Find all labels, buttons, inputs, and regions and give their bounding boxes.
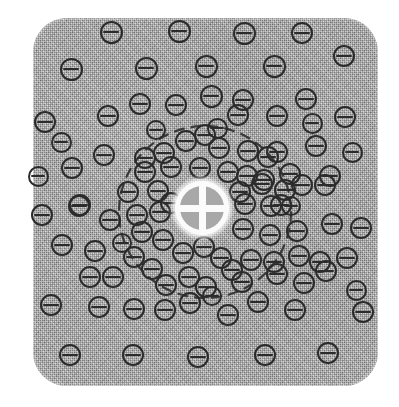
figure-root: Particle distribution field with central… xyxy=(0,0,399,407)
cluster-boundary-circle xyxy=(119,126,291,298)
cluster-boundary-layer xyxy=(0,0,399,407)
